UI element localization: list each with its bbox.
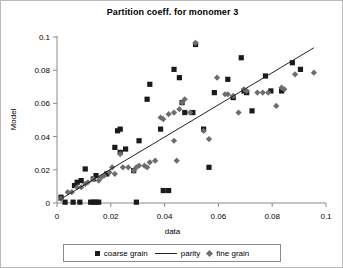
data-point-square (112, 145, 117, 150)
data-point-diamond (311, 70, 317, 76)
chart-legend: coarse grain parity fine grain (63, 244, 281, 262)
data-point-square (83, 166, 88, 171)
data-point-square (71, 200, 76, 205)
y-axis-tick-label: 0.1 (39, 33, 51, 42)
y-axis-tick-label: 0.06 (34, 99, 50, 108)
data-point-diamond (147, 159, 153, 165)
data-point-square (239, 55, 244, 60)
data-point-square (145, 97, 150, 102)
line-marker-icon (155, 253, 177, 254)
data-point-diamond (254, 90, 260, 96)
data-point-diamond (112, 171, 118, 177)
y-axis-tick-label: 0.02 (34, 166, 50, 175)
data-point-square (134, 200, 139, 205)
data-point-diamond (176, 106, 182, 112)
x-axis-tick-label: 0 (55, 212, 60, 221)
data-point-square (123, 146, 128, 151)
data-point-square (118, 127, 123, 132)
data-point-diamond (235, 109, 241, 115)
parity-line (58, 48, 314, 201)
data-point-diamond (152, 158, 158, 164)
data-point-diamond (125, 164, 131, 170)
x-axis-tick-label: 0.04 (157, 212, 173, 221)
square-marker-icon (95, 251, 100, 256)
y-axis-label-wrapper: Model (7, 93, 19, 153)
data-point-diamond (174, 158, 180, 164)
legend-item-parity: parity (155, 249, 201, 258)
data-point-diamond (206, 136, 212, 142)
data-point-square (177, 75, 182, 80)
data-point-square (136, 138, 141, 143)
x-axis-tick-label: 0.08 (264, 212, 280, 221)
x-axis-tick-label: 0.1 (320, 212, 332, 221)
data-point-diamond (273, 103, 279, 109)
legend-item-fine-grain: fine grain (207, 249, 249, 258)
data-point-square (182, 110, 187, 115)
legend-label: parity (181, 249, 201, 258)
y-axis-tick-label: 0.08 (34, 66, 50, 75)
data-point-diamond (214, 75, 220, 81)
data-point-diamond (292, 71, 298, 77)
x-axis-tick-label: 0.02 (103, 212, 119, 221)
data-point-square (249, 108, 254, 113)
series-coarse-grain (58, 42, 303, 205)
data-point-square (62, 200, 67, 205)
data-point-square (77, 200, 82, 205)
data-point-diamond (260, 90, 266, 96)
data-point-square (161, 188, 166, 193)
x-axis-tick-label: 0.06 (211, 212, 227, 221)
data-point-square (147, 82, 152, 87)
data-point-diamond (171, 109, 177, 115)
data-point-square (158, 127, 163, 132)
legend-label: coarse grain (104, 249, 148, 258)
y-axis-tick-label: 0.04 (34, 133, 50, 142)
data-point-square (96, 200, 101, 205)
data-point-square (298, 67, 303, 72)
x-axis-label: data (1, 227, 343, 236)
data-point-diamond (120, 164, 126, 170)
data-point-square (206, 165, 211, 170)
y-axis-label: Model (9, 90, 18, 150)
diamond-marker-icon (206, 249, 213, 256)
legend-label: fine grain (216, 249, 249, 258)
y-axis-tick-label: 0 (46, 199, 51, 208)
data-point-diamond (166, 111, 172, 117)
data-point-square (166, 188, 171, 193)
chart-figure: Partition coeff. for monomer 3 00.020.04… (0, 0, 343, 268)
data-point-diamond (171, 138, 177, 144)
data-point-square (225, 77, 230, 82)
data-point-square (79, 178, 84, 183)
data-point-square (212, 90, 217, 95)
legend-item-coarse-grain: coarse grain (95, 249, 148, 258)
data-point-square (171, 67, 176, 72)
